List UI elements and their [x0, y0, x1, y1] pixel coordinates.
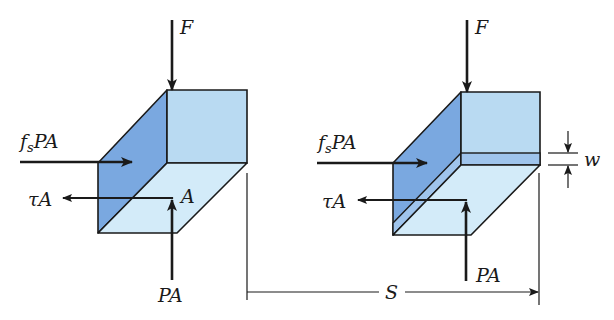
label-tauA-left: τA	[28, 188, 52, 210]
label-PA-right: PA	[475, 264, 501, 286]
label-w: w	[584, 148, 600, 170]
label-F-right: F	[474, 16, 489, 38]
right-block-shear-layer-front	[461, 153, 540, 165]
label-fsPA-left: fsPA	[18, 130, 58, 155]
label-PA-left: PA	[157, 284, 183, 306]
shear-diagram: F fsPA τA PA A F fsPA τA	[0, 0, 614, 320]
label-tauA-right: τA	[322, 190, 346, 212]
label-area-A: A	[179, 185, 195, 207]
right-force-F: F	[467, 16, 489, 92]
label-F-left: F	[179, 16, 194, 38]
label-S: S	[385, 281, 398, 303]
left-force-F: F	[172, 16, 194, 90]
label-fsPA-right: fsPA	[316, 131, 356, 156]
width-dimension: w	[548, 131, 600, 188]
left-block-front-face	[167, 90, 247, 163]
